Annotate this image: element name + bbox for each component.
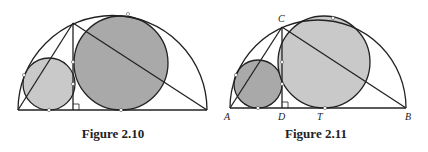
figure-2-11: C A D T B bbox=[223, 13, 411, 122]
figure-caption: Figure 2.10 bbox=[53, 126, 173, 142]
right-angle-mark bbox=[73, 104, 79, 110]
big-incircle bbox=[278, 16, 370, 108]
figure-2-10 bbox=[18, 12, 207, 111]
label-a: A bbox=[223, 111, 231, 122]
small-incircle bbox=[234, 60, 282, 108]
right-angle-mark bbox=[282, 102, 288, 108]
label-d: D bbox=[277, 111, 286, 122]
label-c: C bbox=[278, 13, 285, 24]
label-b: B bbox=[405, 111, 411, 122]
big-incircle bbox=[74, 16, 168, 110]
figure-caption: Figure 2.11 bbox=[256, 126, 376, 142]
label-t: T bbox=[317, 111, 324, 122]
small-incircle bbox=[23, 58, 75, 110]
